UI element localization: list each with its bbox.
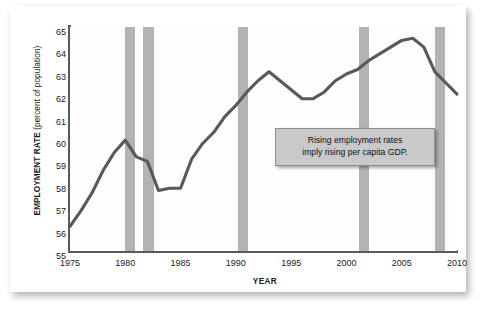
y-axis-tick-label: 56 — [44, 230, 66, 239]
x-axis-title: YEAR — [70, 277, 460, 286]
x-axis-tick-label: 1990 — [216, 258, 256, 268]
y-axis-tick-label: 60 — [44, 140, 66, 149]
y-axis-tick-label: 59 — [44, 162, 66, 171]
x-axis-tick-labels: 19751980198519901995200020052010 — [10, 258, 483, 272]
y-axis-tick-label: 57 — [44, 207, 66, 216]
chart-figure: EMPLOYMENT RATE (percent of population) … — [0, 0, 483, 309]
x-axis-tick-label: 2010 — [437, 258, 477, 268]
y-axis-tick-label: 64 — [44, 50, 66, 59]
annotation-line-2: imply rising per capita GDP. — [281, 147, 429, 159]
y-axis-tick-label: 58 — [44, 185, 66, 194]
annotation-callout: Rising employment rates imply rising per… — [275, 128, 435, 166]
figure-card: EMPLOYMENT RATE (percent of population) … — [10, 6, 466, 292]
y-axis-tick-label: 63 — [44, 73, 66, 82]
y-axis-tick-label: 62 — [44, 95, 66, 104]
x-axis-tick-label: 2000 — [326, 258, 366, 268]
annotation-line-1: Rising employment rates — [281, 135, 429, 147]
x-axis-tick-label: 2005 — [382, 258, 422, 268]
x-axis-tick-label: 1995 — [271, 258, 311, 268]
y-axis-tick-label: 61 — [44, 118, 66, 127]
x-axis-tick-label: 1985 — [161, 258, 201, 268]
x-axis-tick-label: 1975 — [50, 258, 90, 268]
x-axis-tick-label: 1980 — [105, 258, 145, 268]
y-axis-tick-label: 65 — [44, 28, 66, 37]
